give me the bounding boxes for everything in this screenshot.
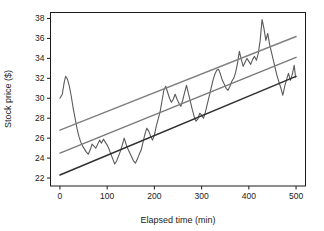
x-tick-label: 0 bbox=[58, 191, 63, 201]
x-tick-label: 300 bbox=[195, 191, 209, 201]
x-tick-label: 200 bbox=[147, 191, 161, 201]
y-tick-label: 32 bbox=[35, 73, 45, 83]
y-tick-label: 30 bbox=[35, 93, 45, 103]
stock-price-chart-figure: 222426283032343638 0100200300400500 Elap… bbox=[0, 0, 324, 231]
chart-background bbox=[0, 0, 324, 231]
chart-canvas: 222426283032343638 0100200300400500 Elap… bbox=[0, 0, 324, 231]
y-tick-label: 26 bbox=[35, 133, 45, 143]
y-tick-label: 28 bbox=[35, 113, 45, 123]
x-tick-label: 400 bbox=[242, 191, 256, 201]
y-tick-label: 36 bbox=[35, 33, 45, 43]
y-axis-title: Stock price ($) bbox=[3, 70, 13, 128]
y-tick-label: 38 bbox=[35, 13, 45, 23]
x-tick-label: 100 bbox=[100, 191, 114, 201]
x-axis-title: Elapsed time (min) bbox=[140, 215, 215, 225]
y-tick-label: 34 bbox=[35, 53, 45, 63]
y-tick-label: 24 bbox=[35, 153, 45, 163]
x-tick-label: 500 bbox=[289, 191, 303, 201]
y-axis-ticks: 222426283032343638 bbox=[35, 13, 50, 183]
y-tick-label: 22 bbox=[35, 173, 45, 183]
